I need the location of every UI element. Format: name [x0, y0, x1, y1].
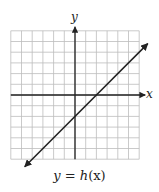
- y-axis-label: y: [71, 10, 78, 24]
- caption-arg: (x): [88, 168, 105, 183]
- function-graph: [0, 0, 159, 192]
- axes: [11, 27, 145, 159]
- graph-caption: y = h(x): [0, 168, 159, 183]
- caption-equals: =: [61, 168, 80, 183]
- caption-function: h: [80, 168, 88, 183]
- x-axis-label: x: [146, 87, 153, 101]
- caption-y: y: [53, 168, 60, 183]
